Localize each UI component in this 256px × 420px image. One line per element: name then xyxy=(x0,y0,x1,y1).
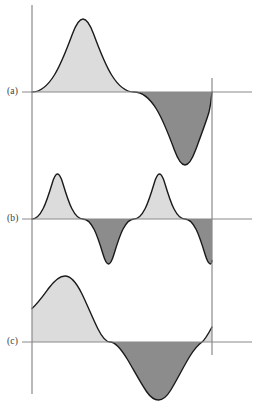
panel-a xyxy=(22,19,252,165)
panel-b-negative-area-1 xyxy=(83,219,134,264)
waveform-svg xyxy=(0,0,256,420)
panel-label-a: (a) xyxy=(7,86,18,96)
panel-b-positive-area-1 xyxy=(32,174,83,219)
panel-b-positive-area-2 xyxy=(134,174,185,219)
panel-c-positive-area xyxy=(32,276,110,342)
panel-b-negative-area-2 xyxy=(185,219,212,264)
waveform-figure: (a) (b) (c) xyxy=(0,0,256,420)
panel-a-positive-area xyxy=(32,19,134,92)
panel-c xyxy=(22,276,252,400)
panel-label-c: (c) xyxy=(7,336,18,346)
panel-label-b: (b) xyxy=(7,213,19,223)
panel-a-negative-area xyxy=(134,92,212,165)
panel-b xyxy=(22,174,252,264)
panel-c-negative-area xyxy=(110,342,202,400)
